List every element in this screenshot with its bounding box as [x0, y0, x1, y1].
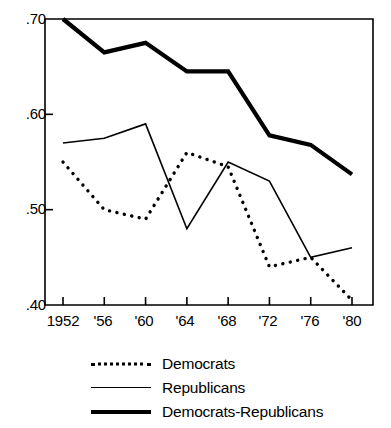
y-tick-marks	[45, 114, 53, 209]
legend-swatch-thick-icon	[88, 405, 154, 419]
chart-container: .70 .60 .50 .40 1952 '56 '60 '64 '68 '72…	[0, 0, 391, 428]
x-tick-marks	[63, 297, 352, 305]
legend-label-republicans: Republicans	[154, 379, 245, 397]
plot-frame	[45, 19, 373, 305]
series-line-democrats-republicans	[63, 19, 352, 174]
legend: Democrats Republicans Democrats-Republic…	[88, 352, 388, 424]
legend-item-democrats: Democrats	[88, 352, 388, 376]
series-line-democrats	[63, 152, 352, 300]
legend-swatch-dotted-icon	[88, 357, 154, 371]
legend-label-democrats-republicans: Democrats-Republicans	[154, 403, 323, 421]
legend-item-republicans: Republicans	[88, 376, 388, 400]
legend-item-democrats-republicans: Democrats-Republicans	[88, 400, 388, 424]
legend-label-democrats: Democrats	[154, 355, 235, 373]
legend-swatch-thin-icon	[88, 381, 154, 395]
